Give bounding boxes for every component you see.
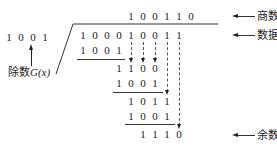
dividend-digit: 1: [163, 30, 171, 41]
step-digit: 0: [91, 45, 99, 56]
dividend-label: 数据序列: [257, 29, 277, 41]
step-digit: 1: [79, 45, 87, 56]
step-digit: 0: [139, 96, 147, 107]
step-digit: 1: [115, 78, 123, 89]
step-digit: 1: [127, 63, 135, 74]
subtraction-line: [113, 92, 163, 93]
step-digit: 1: [115, 45, 123, 56]
step-digit: 1: [151, 78, 159, 89]
step-digit: 0: [127, 78, 135, 89]
dividend-digit: 0: [91, 30, 99, 41]
quotient-digit: 1: [175, 11, 183, 22]
remainder-digit: 1: [163, 129, 171, 140]
remainder-digit: 1: [139, 129, 147, 140]
step-digit: 0: [151, 111, 159, 122]
quotient-digit: 0: [139, 11, 147, 22]
step-digit: 0: [139, 78, 147, 89]
step-digit: 0: [139, 111, 147, 122]
remainder-digit: 1: [151, 129, 159, 140]
quotient-digit: 0: [187, 11, 195, 22]
quotient-digit: 1: [163, 11, 171, 22]
step-digit: 0: [103, 45, 111, 56]
quotient-digit: 1: [127, 11, 135, 22]
subtraction-line: [125, 124, 175, 125]
remainder-digit: 0: [175, 129, 183, 140]
step-digit: 1: [163, 96, 171, 107]
dividend-digit: 1: [175, 30, 183, 41]
dividend-digit: 0: [103, 30, 111, 41]
quotient-digit: 0: [151, 11, 159, 22]
quotient-label: 商数: [257, 10, 277, 22]
step-digit: 1: [127, 96, 135, 107]
step-digit: 1: [115, 63, 123, 74]
dividend-digit: 1: [79, 30, 87, 41]
step-digit: 0: [151, 63, 159, 74]
dividend-digit: 1: [127, 30, 135, 41]
step-digit: 0: [139, 63, 147, 74]
dividend-digit: 0: [139, 30, 147, 41]
dividend-digit: 0: [115, 30, 123, 41]
step-digit: 1: [151, 96, 159, 107]
step-digit: 1: [163, 111, 171, 122]
step-digit: 1: [127, 111, 135, 122]
remainder-label: 余数R(x): [257, 129, 277, 141]
subtraction-line: [77, 59, 125, 60]
dividend-digit: 0: [151, 30, 159, 41]
